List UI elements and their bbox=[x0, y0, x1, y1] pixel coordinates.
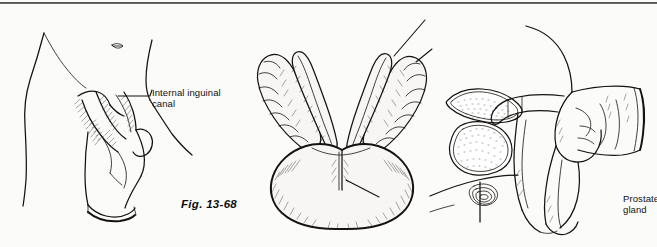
prostate-seminal-vesicles-illustration bbox=[240, 0, 450, 247]
figure-page: Internal inguinal canal Fig. 13-68 bbox=[0, 0, 657, 247]
figure-caption-13-68: Fig. 13-68 bbox=[181, 198, 237, 210]
figure-panel-center: Ampulla of ductus deferens Seminal vesic… bbox=[240, 0, 450, 247]
figure-panel-right: Fig. 13-69 bbox=[430, 0, 657, 247]
label-internal-inguinal-canal: Internal inguinal canal bbox=[152, 88, 221, 109]
figure-panel-left: Internal inguinal canal Fig. 13-68 bbox=[0, 0, 250, 247]
rectal-examination-illustration bbox=[430, 0, 657, 247]
